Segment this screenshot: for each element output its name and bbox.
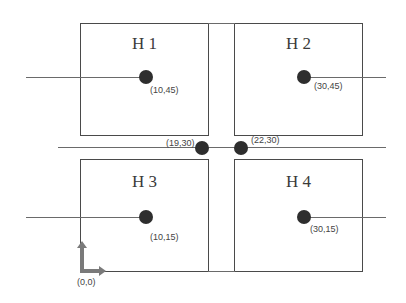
h4-coord-label: (30,15) [310,224,339,234]
h1-sensor-dot [139,70,153,84]
h2-sensor-dot [297,70,311,84]
h4-sensor-line [304,217,386,218]
room-h3-label: H 3 [81,172,208,192]
corridor-right-coord-label: (22,30) [251,135,280,145]
h3-sensor-line [26,217,146,218]
x-axis-arrowhead-icon [99,266,106,276]
corridor-left-coord-label: (19,30) [166,138,195,148]
origin-label: (0,0) [77,277,96,287]
h1-coord-label: (10,45) [150,85,179,95]
corridor-sensor-line [58,147,386,148]
h2-coord-label: (30,45) [314,81,343,91]
room-h4-label: H 4 [235,172,362,192]
y-axis-arrowhead-icon [77,241,87,248]
room-h1-label: H 1 [81,34,208,54]
h1-sensor-line [26,77,146,78]
h3-sensor-dot [139,210,153,224]
h3-coord-label: (10,15) [150,232,179,242]
h2-sensor-line [304,77,386,78]
corridor-top-line [208,23,235,24]
x-axis-arrow [80,269,100,273]
floor-plan-diagram: H 1 H 2 H 3 H 4 (10,45) (30,45) (10,15) … [0,0,406,303]
corridor-bottom-line [208,271,235,272]
room-h2-label: H 2 [235,34,362,54]
corridor-right-dot [234,141,248,155]
h4-sensor-dot [297,210,311,224]
corridor-left-dot [195,141,209,155]
